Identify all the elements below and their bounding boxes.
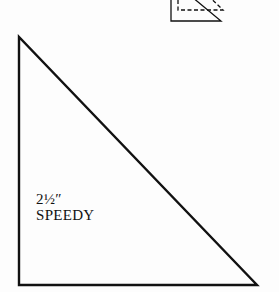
folded-triangle-icon — [171, 0, 223, 21]
template-label: 2½″ SPEEDY — [36, 191, 94, 223]
speedy-triangle-template — [19, 37, 257, 285]
name-label: SPEEDY — [36, 207, 94, 223]
diagram-canvas — [0, 0, 279, 292]
size-label: 2½″ — [36, 191, 94, 207]
